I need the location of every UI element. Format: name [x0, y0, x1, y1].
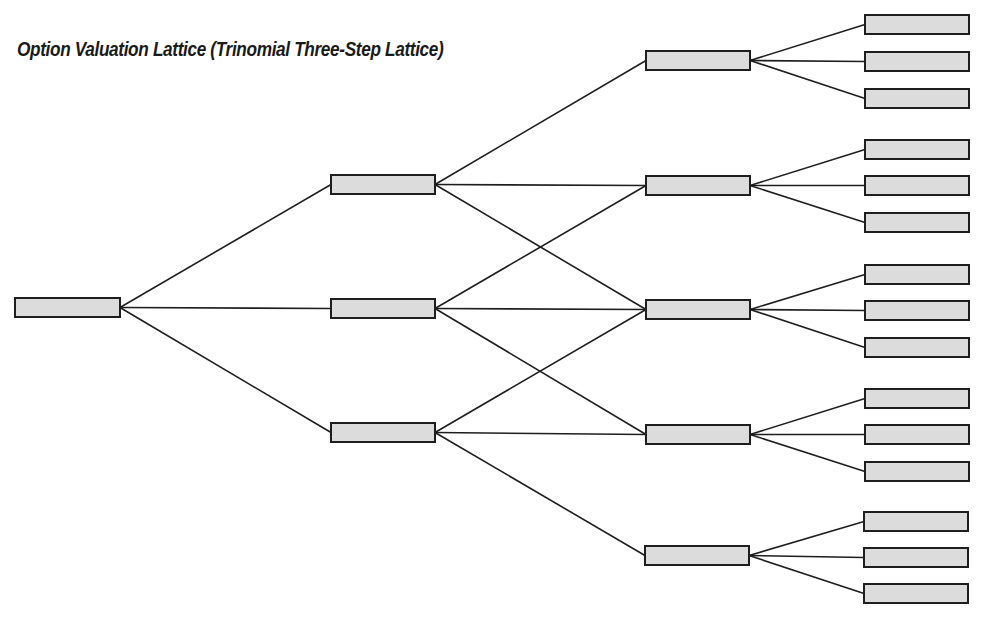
lattice-edge [120, 308, 331, 309]
lattice-edge [750, 310, 865, 348]
lattice-edge [435, 61, 646, 185]
lattice-edge [435, 185, 646, 186]
lattice-edge [749, 556, 864, 558]
lattice-node-step-3 [864, 548, 968, 567]
lattice-edge [750, 61, 865, 99]
lattice-edge [435, 433, 646, 435]
lattice-edge [750, 150, 865, 186]
lattice-node-step-3 [865, 52, 969, 71]
lattice-edge [750, 186, 865, 223]
lattice-node-step-3 [864, 584, 968, 603]
lattice-node-step-2 [646, 176, 750, 195]
lattice-edge [749, 522, 864, 556]
lattice-edge [750, 310, 865, 311]
lattice-edge [749, 556, 864, 594]
lattice-node-step-2 [646, 425, 750, 444]
lattice-edges [120, 25, 865, 594]
lattice-node-step-3 [865, 15, 969, 34]
lattice-node-step-3 [865, 176, 969, 195]
lattice-edge [750, 399, 865, 435]
lattice-edge [750, 61, 865, 62]
lattice-node-step-1 [331, 423, 435, 442]
lattice-node-step-2 [645, 546, 749, 565]
lattice-edge [120, 185, 331, 308]
lattice-node-step-3 [865, 301, 969, 320]
lattice-node-step-3 [865, 89, 969, 108]
trinomial-lattice-diagram [0, 0, 989, 641]
lattice-edge [750, 275, 865, 310]
lattice-node-step-1 [331, 175, 435, 194]
lattice-edge [750, 435, 865, 472]
lattice-node-step-0 [15, 298, 120, 317]
lattice-edge [750, 25, 865, 61]
lattice-node-step-3 [865, 389, 969, 408]
lattice-node-step-1 [331, 299, 435, 318]
lattice-node-step-2 [646, 300, 750, 319]
lattice-node-step-3 [865, 425, 969, 444]
lattice-node-step-3 [865, 462, 969, 481]
lattice-node-step-3 [864, 512, 968, 531]
lattice-node-step-3 [865, 338, 969, 357]
lattice-edge [435, 309, 646, 310]
lattice-node-step-3 [865, 265, 969, 284]
lattice-edge [435, 433, 645, 556]
lattice-node-step-2 [646, 51, 750, 70]
lattice-node-step-3 [865, 140, 969, 159]
lattice-edge [120, 308, 331, 433]
lattice-node-step-3 [865, 213, 969, 232]
